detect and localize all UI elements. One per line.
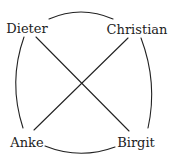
node-anke: Anke	[10, 136, 43, 149]
edge-dieter-christian	[49, 12, 113, 19]
edge-dieter-anke	[16, 37, 24, 128]
node-dieter: Dieter	[6, 22, 47, 35]
node-birgit: Birgit	[117, 136, 155, 149]
edge-christian-birgit	[141, 38, 152, 128]
node-christian: Christian	[107, 23, 168, 36]
edge-anke-birgit	[45, 146, 115, 153]
